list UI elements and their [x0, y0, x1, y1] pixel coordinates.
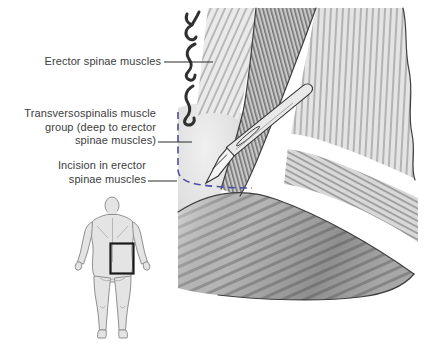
body-posterior-silhouette-icon: [74, 197, 150, 338]
medical-illustration-page: Erector spinae muscles Transversospinali…: [0, 0, 433, 354]
body-right-leg: [115, 276, 132, 330]
label-incision-line2: spinae muscles: [0, 173, 146, 187]
body-left-arm: [78, 222, 93, 265]
label-transversospinalis-line3: spinae muscles): [0, 134, 156, 148]
body-left-leg: [94, 276, 111, 330]
label-transversospinalis-line2: group (deep to erector: [0, 121, 156, 135]
label-erector-spinae-line: Erector spinae muscles: [0, 55, 161, 69]
body-right-arm: [133, 222, 148, 265]
label-incision-line1: Incision in erector: [0, 159, 146, 173]
label-transversospinalis-line1: Transversospinalis muscle: [0, 107, 156, 121]
label-incision: Incision in erector spinae muscles: [0, 159, 146, 186]
label-transversospinalis: Transversospinalis muscle group (deep to…: [0, 107, 156, 148]
body-right-foot: [119, 330, 128, 338]
label-erector-spinae: Erector spinae muscles: [0, 55, 161, 69]
body-left-foot: [97, 330, 106, 338]
